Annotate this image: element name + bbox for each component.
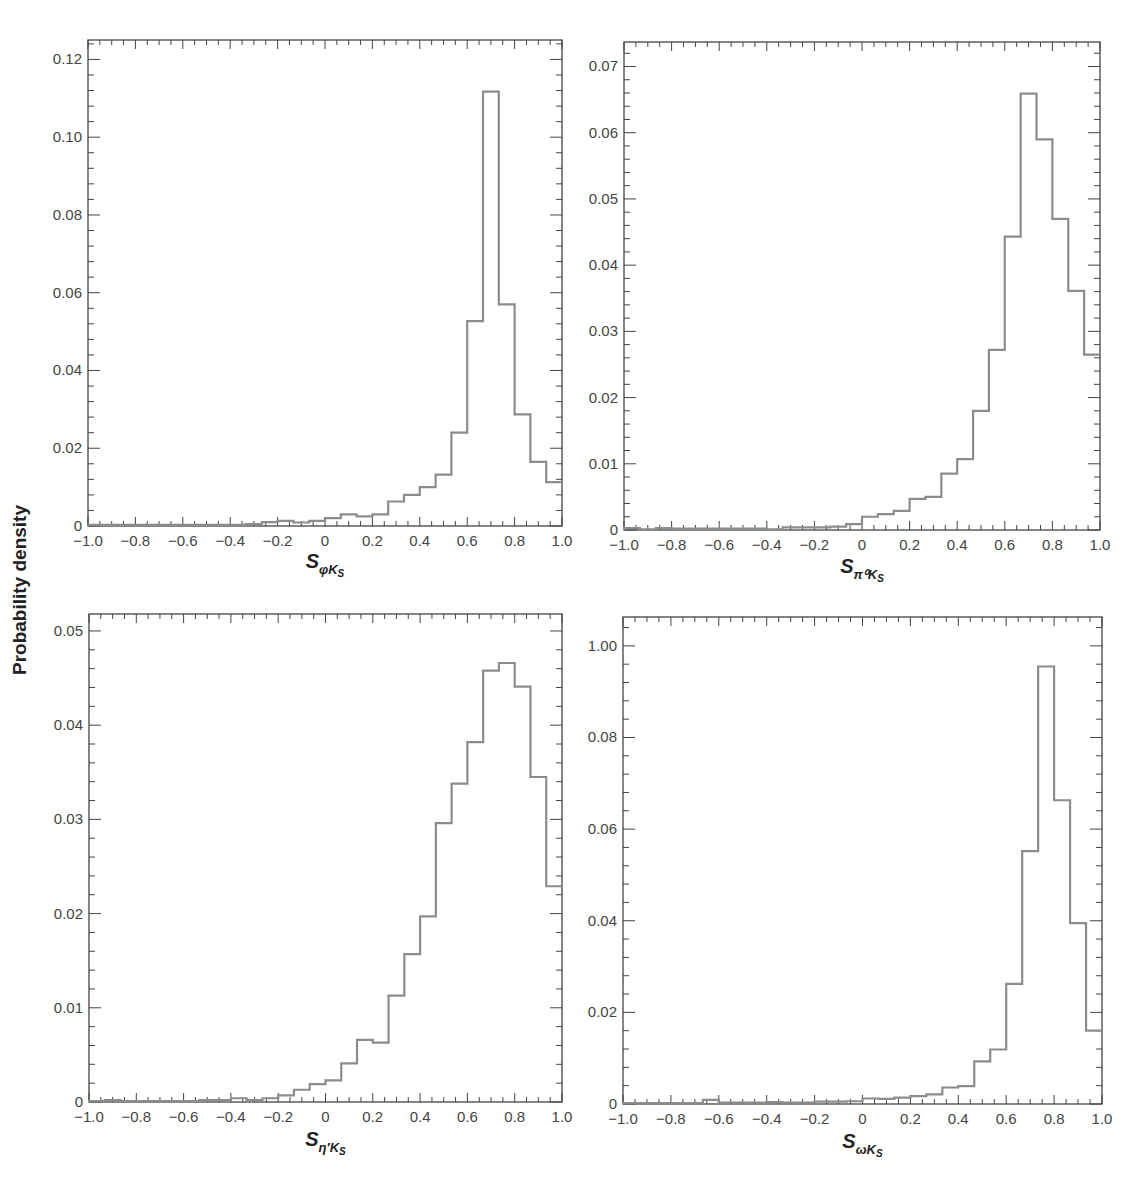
y-tick-label: 1.00 xyxy=(588,637,617,654)
x-axis-label: SωKS xyxy=(842,1130,882,1159)
y-tick-label: 0 xyxy=(609,1095,617,1112)
x-tick-label: 0.2 xyxy=(900,1110,921,1127)
histogram-series xyxy=(623,666,1102,1104)
x-tick-label: 0.4 xyxy=(948,1110,969,1127)
x-tick-label: −0.4 xyxy=(752,1110,782,1127)
figure: Probability density −1.0−0.8−0.6−0.4−0.2… xyxy=(0,0,1141,1195)
y-tick-label: 0.08 xyxy=(588,728,617,745)
y-tick-label: 0.04 xyxy=(588,912,617,929)
y-tick-label: 0.02 xyxy=(588,1003,617,1020)
histogram-omega-ks: −1.0−0.8−0.6−0.4−0.200.20.40.60.81.000.0… xyxy=(0,0,1141,1195)
x-tick-label: 0.8 xyxy=(1044,1110,1065,1127)
x-tick-label: −1.0 xyxy=(608,1110,638,1127)
x-tick-label: −0.2 xyxy=(800,1110,830,1127)
plot-area: −1.0−0.8−0.6−0.4−0.200.20.40.60.81.000.0… xyxy=(0,0,1141,1195)
x-tick-label: 0.6 xyxy=(996,1110,1017,1127)
y-tick-label: 0.06 xyxy=(588,820,617,837)
x-tick-label: 1.0 xyxy=(1092,1110,1113,1127)
x-tick-label: −0.8 xyxy=(656,1110,686,1127)
x-tick-label: −0.6 xyxy=(704,1110,734,1127)
x-tick-label: 0 xyxy=(858,1110,866,1127)
